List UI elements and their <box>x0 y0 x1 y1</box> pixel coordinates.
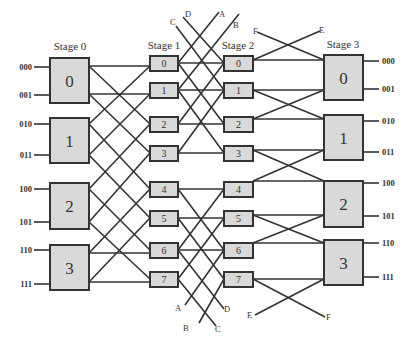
stage1-switch-6: 6 <box>150 243 178 258</box>
stage1-switch-7: 7 <box>150 272 178 287</box>
svg-text:111: 111 <box>382 272 394 282</box>
svg-text:C: C <box>170 17 176 27</box>
stage0-switch-1: 1 <box>50 118 89 163</box>
svg-text:1: 1 <box>162 85 167 96</box>
svg-text:000: 000 <box>382 56 395 66</box>
svg-text:0: 0 <box>65 72 74 91</box>
stage0-to-stage1-wires <box>89 66 150 282</box>
svg-text:010: 010 <box>382 116 395 126</box>
svg-text:000: 000 <box>19 62 32 72</box>
stage2-switch-1: 1 <box>224 83 253 98</box>
svg-text:4: 4 <box>162 184 167 195</box>
svg-text:2: 2 <box>65 197 74 216</box>
stage2-switch-4: 4 <box>224 182 253 197</box>
stage1-switch-4: 4 <box>150 182 178 197</box>
svg-text:1: 1 <box>236 85 241 96</box>
stage2-switch-2: 2 <box>224 117 253 132</box>
svg-text:011: 011 <box>20 150 32 160</box>
stage1-switch-1: 1 <box>150 83 178 98</box>
svg-text:010: 010 <box>19 119 32 129</box>
svg-text:001: 001 <box>382 84 395 94</box>
svg-text:3: 3 <box>162 148 167 159</box>
stage3-switch-2: 2 <box>324 181 363 227</box>
svg-text:2: 2 <box>339 195 348 214</box>
svg-text:E: E <box>319 25 324 35</box>
svg-text:E: E <box>247 310 252 320</box>
svg-text:2: 2 <box>236 119 241 130</box>
svg-text:1: 1 <box>339 129 348 148</box>
svg-text:7: 7 <box>236 274 241 285</box>
stage0-switch-3: 3 <box>50 245 89 290</box>
svg-text:1: 1 <box>65 132 74 151</box>
stage2-to-stage3-wires <box>253 31 325 317</box>
svg-text:F: F <box>253 26 258 36</box>
stage-0-label: Stage 0 <box>54 40 87 52</box>
svg-text:5: 5 <box>162 213 167 224</box>
stage2-switch-5: 5 <box>224 211 253 226</box>
svg-text:B: B <box>233 20 239 30</box>
input-lines <box>34 67 50 284</box>
stage3-switch-3: 3 <box>324 240 363 285</box>
stage-3-label: Stage 3 <box>327 38 360 50</box>
svg-text:101: 101 <box>382 211 395 221</box>
stage2-switch-0: 0 <box>224 56 253 71</box>
output-address-labels: 000 001 010 011 100 101 110 111 <box>382 56 395 282</box>
svg-text:B: B <box>183 323 189 333</box>
svg-text:C: C <box>215 324 221 334</box>
stage1-switch-2: 2 <box>150 117 178 132</box>
svg-text:100: 100 <box>19 184 32 194</box>
svg-text:100: 100 <box>382 178 395 188</box>
svg-text:3: 3 <box>65 259 74 278</box>
svg-text:0: 0 <box>339 69 348 88</box>
stage3-switch-1: 1 <box>324 115 363 160</box>
svg-text:110: 110 <box>382 238 394 248</box>
stage-1-switches: 0 1 2 3 4 5 6 7 <box>150 56 178 287</box>
svg-text:6: 6 <box>236 245 241 256</box>
svg-text:101: 101 <box>19 217 32 227</box>
svg-text:6: 6 <box>162 245 167 256</box>
svg-text:D: D <box>185 9 191 19</box>
svg-text:7: 7 <box>162 274 167 285</box>
input-address-labels: 000 001 010 011 100 101 110 111 <box>19 62 32 289</box>
svg-text:D: D <box>224 304 230 314</box>
svg-text:011: 011 <box>382 147 394 157</box>
svg-text:111: 111 <box>20 279 32 289</box>
stage-0-switches: 0 1 2 3 <box>50 58 89 290</box>
svg-text:3: 3 <box>339 254 348 273</box>
stage-3-switches: 0 1 2 3 <box>324 55 363 285</box>
svg-text:A: A <box>175 303 182 313</box>
stage1-switch-0: 0 <box>150 56 178 71</box>
svg-text:0: 0 <box>162 58 167 69</box>
interconnection-network-diagram: Stage 0 Stage 1 Stage 2 Stage 3 <box>0 0 413 348</box>
stage1-switch-5: 5 <box>150 211 178 226</box>
stage0-switch-0: 0 <box>50 58 89 103</box>
svg-text:001: 001 <box>19 90 32 100</box>
svg-text:5: 5 <box>236 213 241 224</box>
output-lines <box>363 61 379 277</box>
svg-text:4: 4 <box>236 184 241 195</box>
svg-text:A: A <box>219 9 226 19</box>
stage-1-label: Stage 1 <box>148 39 181 51</box>
stage-2-label: Stage 2 <box>222 39 255 51</box>
svg-text:110: 110 <box>20 245 32 255</box>
stage-2-switches: 0 1 2 3 4 5 6 7 <box>224 56 253 287</box>
stage0-switch-2: 2 <box>50 183 89 229</box>
svg-text:0: 0 <box>236 58 241 69</box>
stage3-switch-0: 0 <box>324 55 363 100</box>
stage2-switch-6: 6 <box>224 243 253 258</box>
stage1-switch-3: 3 <box>150 146 178 161</box>
stage2-switch-7: 7 <box>224 272 253 287</box>
svg-text:F: F <box>326 312 331 322</box>
svg-text:2: 2 <box>162 119 167 130</box>
svg-text:3: 3 <box>236 148 241 159</box>
wrap-labels-top: C D A B F E <box>170 9 324 36</box>
stage2-switch-3: 3 <box>224 146 253 161</box>
